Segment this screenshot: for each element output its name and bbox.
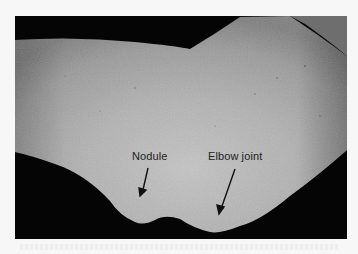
page-bleed-texture <box>20 244 338 250</box>
elbow-joint-label: Elbow joint <box>208 150 262 162</box>
elbow-photo: Nodule Elbow joint <box>15 16 347 239</box>
nodule-label: Nodule <box>132 150 167 162</box>
arm-photo-graphic <box>15 16 347 239</box>
